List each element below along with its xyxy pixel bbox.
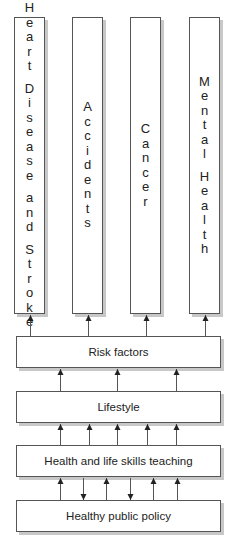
arrow-up-icon	[87, 424, 93, 430]
arrow-up-icon	[144, 315, 150, 321]
arrow-up-icon	[203, 315, 209, 321]
arrows-layer	[0, 0, 235, 548]
arrow-up-icon	[174, 369, 180, 375]
arrow-up-icon	[104, 478, 110, 484]
arrow-down-icon	[81, 494, 87, 500]
arrow-up-icon	[86, 315, 92, 321]
arrow-up-icon	[58, 478, 64, 484]
arrow-up-icon	[174, 424, 180, 430]
arrow-up-icon	[58, 369, 64, 375]
arrow-up-icon	[115, 424, 121, 430]
arrow-down-icon	[128, 494, 134, 500]
arrow-up-icon	[115, 369, 121, 375]
arrow-up-icon	[151, 478, 157, 484]
arrow-up-icon	[58, 424, 64, 430]
arrow-up-icon	[175, 478, 181, 484]
arrow-up-icon	[28, 315, 34, 321]
arrow-up-icon	[145, 424, 151, 430]
